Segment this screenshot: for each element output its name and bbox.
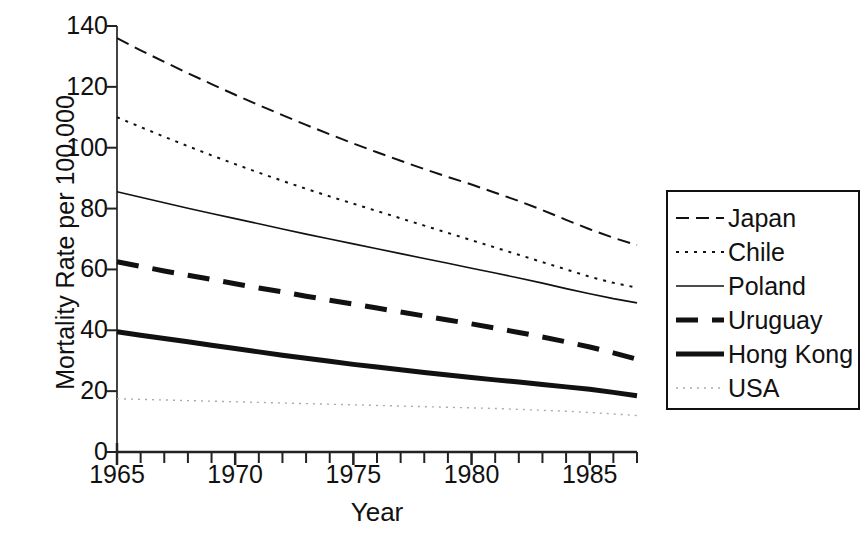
series-line-japan — [117, 38, 637, 245]
legend-label: Uruguay — [728, 307, 823, 333]
legend-line-swatch — [674, 344, 726, 364]
legend-item-uruguay[interactable]: Uruguay — [674, 302, 856, 338]
axes — [106, 26, 637, 465]
legend-label: Japan — [728, 205, 796, 231]
legend-line-swatch — [674, 242, 726, 262]
legend-line-swatch — [674, 208, 726, 228]
legend-line-swatch — [674, 378, 726, 398]
legend-line-swatch — [674, 276, 726, 296]
legend-label: Hong Kong — [728, 341, 853, 367]
mortality-rate-line-chart: Mortality Rate per 100,000 0204060801001… — [0, 0, 867, 541]
legend-item-japan[interactable]: Japan — [674, 200, 856, 236]
legend-box: JapanChilePolandUruguayHong KongUSA — [666, 190, 860, 410]
legend-line-swatch — [674, 310, 726, 330]
legend-item-hong-kong[interactable]: Hong Kong — [674, 336, 856, 372]
series-line-chile — [117, 117, 637, 287]
data-series-group — [117, 38, 637, 415]
legend-label: Poland — [728, 273, 806, 299]
legend-label: USA — [728, 375, 779, 401]
series-line-poland — [117, 192, 637, 303]
legend-label: Chile — [728, 239, 785, 265]
series-line-usa — [117, 399, 637, 416]
legend-item-usa[interactable]: USA — [674, 370, 856, 406]
legend-item-poland[interactable]: Poland — [674, 268, 856, 304]
legend-item-chile[interactable]: Chile — [674, 234, 856, 270]
legend-items: JapanChilePolandUruguayHong KongUSA — [668, 192, 858, 408]
